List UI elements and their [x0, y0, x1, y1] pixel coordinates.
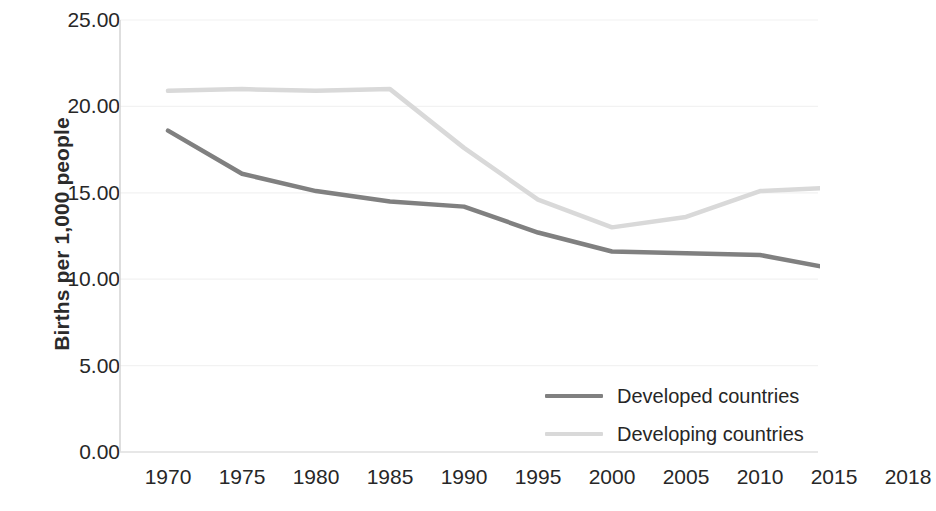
chart-legend: Developed countriesDeveloping countries — [545, 377, 815, 453]
x-axis-tick-2000: 2000 — [575, 466, 649, 487]
legend-item-developed-countries[interactable]: Developed countries — [545, 377, 815, 415]
legend-item-developing-countries[interactable]: Developing countries — [545, 415, 815, 453]
x-axis-tick-2015: 2015 — [797, 466, 871, 487]
data-series — [168, 89, 820, 277]
legend-label: Developed countries — [617, 385, 799, 408]
x-axis-tick-1990: 1990 — [427, 466, 501, 487]
x-axis-tick-1995: 1995 — [501, 466, 575, 487]
x-axis-tick-labels: 1970197519801985199019952000200520102015… — [120, 466, 820, 500]
x-axis-tick-2005: 2005 — [649, 466, 723, 487]
x-axis-tick-1980: 1980 — [279, 466, 353, 487]
x-axis-tick-1985: 1985 — [353, 466, 427, 487]
x-axis-tick-1975: 1975 — [205, 466, 279, 487]
legend-line-swatch-icon — [545, 432, 603, 436]
legend-label: Developing countries — [617, 423, 804, 446]
x-axis-tick-1970: 1970 — [131, 466, 205, 487]
x-axis-tick-2010: 2010 — [723, 466, 797, 487]
series-line-developing-countries — [168, 89, 820, 227]
x-axis-tick-2018: 2018 — [871, 466, 936, 487]
legend-line-swatch-icon — [545, 394, 603, 398]
